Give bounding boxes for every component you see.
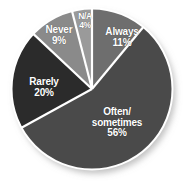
pie-chart: Always 11% Often/ sometimes 56% Rarely 2… (0, 0, 184, 185)
pie-chart-canvas (0, 0, 184, 185)
